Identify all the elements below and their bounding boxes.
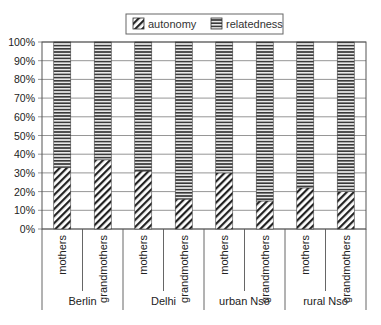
y-tick-label: 80% [14,73,35,85]
segment-autonomy [337,192,354,229]
bar-rural-nso-grandmothers [337,42,354,229]
legend-label-autonomy: autonomy [148,18,197,30]
y-tick-label: 40% [14,148,35,160]
bar-berlin-mothers [54,42,71,229]
y-tick-label: 100% [8,36,35,48]
legend-swatch-autonomy-icon [133,18,144,29]
gridlines [38,42,366,229]
segment-autonomy [256,201,273,229]
x-category-label: mothers [218,235,230,275]
y-tick-label: 70% [14,92,35,104]
y-tick-label: 10% [14,204,35,216]
x-axis: mothersgrandmothersmothersgrandmothersmo… [42,229,366,310]
legend-swatch-relatedness-icon [211,18,222,29]
x-category-label: mothers [299,235,311,275]
y-tick-label: 90% [14,55,35,67]
x-category-label: grandmothers [178,235,190,303]
x-group-label: Berlin [68,295,96,307]
legend: autonomy relatedness [126,14,283,34]
y-tick-label: 30% [14,167,35,179]
segment-relatedness [216,42,233,173]
segment-relatedness [94,42,111,160]
bar-berlin-grandmothers [94,42,111,229]
bar-urban-nso-mothers [216,42,233,229]
bar-rural-nso-mothers [297,42,314,229]
segment-relatedness [337,42,354,192]
segment-autonomy [297,188,314,229]
y-tick-label: 0% [20,223,35,235]
x-category-label: mothers [56,235,68,275]
segment-autonomy [175,199,192,229]
bar-urban-nso-grandmothers [256,42,273,229]
x-category-label: grandmothers [259,235,271,303]
segment-autonomy [94,160,111,229]
bar-delhi-mothers [135,42,152,229]
segment-relatedness [175,42,192,199]
x-category-label: grandmothers [97,235,109,303]
bar-delhi-grandmothers [175,42,192,229]
x-group-label: urban Nso [219,295,270,307]
x-group-label: rural Nso [303,295,348,307]
y-tick-label: 60% [14,111,35,123]
segment-autonomy [135,171,152,229]
segment-relatedness [256,42,273,201]
segment-relatedness [297,42,314,188]
x-group-label: Delhi [151,295,176,307]
x-category-label: grandmothers [340,235,352,303]
segment-autonomy [54,167,71,229]
stacked-bar-chart: autonomy relatedness 0%10%20%30%40%50%60… [0,0,381,325]
y-tick-label: 50% [14,130,35,142]
segment-relatedness [135,42,152,171]
legend-label-relatedness: relatedness [226,18,283,30]
x-category-label: mothers [137,235,149,275]
segment-relatedness [54,42,71,167]
segment-autonomy [216,173,233,229]
y-axis-tick-labels: 0%10%20%30%40%50%60%70%80%90%100% [8,36,35,235]
y-tick-label: 20% [14,186,35,198]
